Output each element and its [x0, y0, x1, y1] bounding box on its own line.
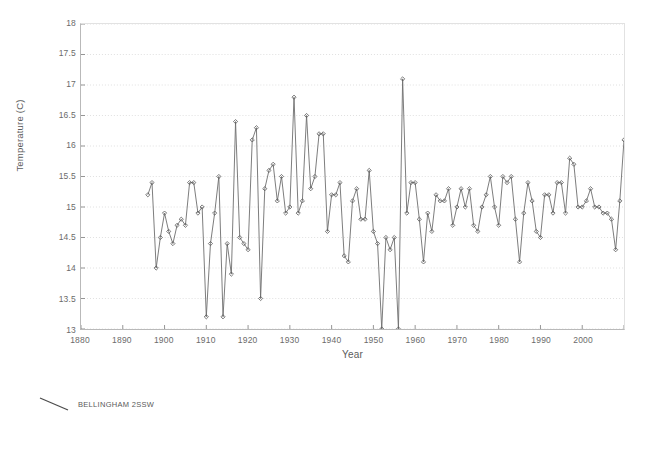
- y-tick-label: 18: [42, 19, 76, 28]
- x-tick-label: 1890: [100, 336, 144, 345]
- y-tick-label: 14: [42, 264, 76, 273]
- x-tick-label: 1970: [435, 336, 479, 345]
- x-tick-label: 1930: [268, 336, 312, 345]
- y-tick-label: 17: [42, 80, 76, 89]
- x-tick-label: 1990: [519, 336, 563, 345]
- y-axis-title: Temperature (C): [14, 71, 25, 201]
- x-tick-label: 1960: [393, 336, 437, 345]
- x-tick-label: 1900: [142, 336, 186, 345]
- data-point-marker: [146, 193, 150, 197]
- y-tick-label: 16.5: [42, 111, 76, 120]
- y-tick-label: 13: [42, 326, 76, 335]
- y-tick-label: 15.5: [42, 172, 76, 181]
- x-tick-label: 1950: [352, 336, 396, 345]
- y-tick-label: 14.5: [42, 233, 76, 242]
- data-series-bellingham: [146, 77, 624, 329]
- legend-label-bellingham: BELLINGHAM 2SSW: [78, 400, 154, 409]
- x-tick-label: 1910: [184, 336, 228, 345]
- y-axis-tick-labels: 1817.51716.51615.51514.51413.513: [38, 23, 76, 330]
- x-axis-title: Year: [80, 349, 625, 360]
- y-tick-label: 13.5: [42, 295, 76, 304]
- y-tick-label: 16: [42, 141, 76, 150]
- gridlines: [81, 24, 624, 329]
- series-line: [148, 79, 624, 329]
- legend-line-swatch: [38, 396, 72, 412]
- x-tick-label: 1940: [310, 336, 354, 345]
- chart-legend: BELLINGHAM 2SSW: [38, 396, 154, 412]
- x-tick-label: 1920: [226, 336, 270, 345]
- x-tick-label: 1980: [477, 336, 521, 345]
- x-tick-label: 1880: [58, 336, 102, 345]
- plot-svg: [81, 24, 624, 329]
- x-tick-label: 2000: [561, 336, 605, 345]
- temperature-line-chart: Temperature (C) 1817.51716.51615.51514.5…: [0, 0, 650, 390]
- y-tick-label: 17.5: [42, 49, 76, 58]
- y-tick-label: 15: [42, 203, 76, 212]
- plot-area: [80, 23, 625, 330]
- x-axis-tick-labels: 1880189019001910192019301940195019601970…: [80, 336, 625, 350]
- chart-page: Temperature (C) 1817.51716.51615.51514.5…: [0, 0, 650, 454]
